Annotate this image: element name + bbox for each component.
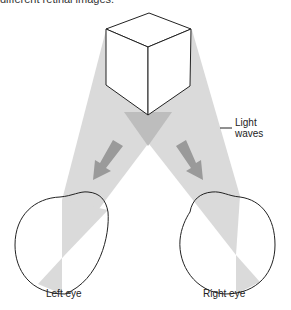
- left-beam-lower: [62, 200, 108, 258]
- right-eye-label: Right eye: [203, 288, 245, 299]
- light-waves-label: Light waves: [235, 117, 263, 139]
- light-waves-line1: Light: [235, 117, 263, 128]
- light-waves-line2: waves: [235, 128, 263, 139]
- left-eye-label: Left eye: [46, 288, 82, 299]
- binocular-vision-diagram: [0, 0, 291, 310]
